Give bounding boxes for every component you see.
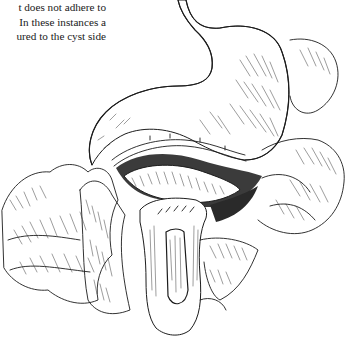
surgical-illustration: [0, 0, 349, 343]
omentum-left: [2, 165, 118, 304]
mesentery-lower: [200, 238, 258, 310]
omentum-center: [80, 181, 130, 314]
jejunal-limb: [140, 198, 207, 335]
